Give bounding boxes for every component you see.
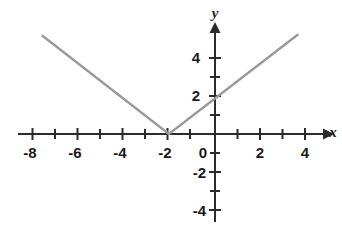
x-tick-label-neg8: -8: [23, 144, 36, 161]
x-tick-label-pos4: 4: [301, 144, 310, 161]
y-tick-label-pos4: 4: [192, 49, 201, 66]
x-tick-label-pos2: 2: [256, 144, 264, 161]
x-tick-label-origin: 0: [199, 144, 207, 161]
x-tick-label-neg6: -6: [68, 144, 81, 161]
absolute-value-curve: [42, 34, 299, 134]
x-tick-label-neg2: -2: [158, 144, 171, 161]
y-tick-label-pos2: 2: [192, 87, 200, 104]
x-axis-label: x: [328, 124, 337, 140]
x-tick-label-neg4: -4: [113, 144, 127, 161]
y-tick-label-neg4: -4: [193, 202, 207, 219]
y-axis-label: y: [210, 5, 219, 21]
y-tick-label-neg2: -2: [193, 164, 206, 181]
coordinate-plane: x y -8 -6 -4 -2 0 2 4 4 2 -2 -4: [0, 0, 342, 226]
graph-figure: x y -8 -6 -4 -2 0 2 4 4 2 -2 -4: [0, 0, 342, 226]
y-axis-arrow-icon: [210, 22, 221, 33]
